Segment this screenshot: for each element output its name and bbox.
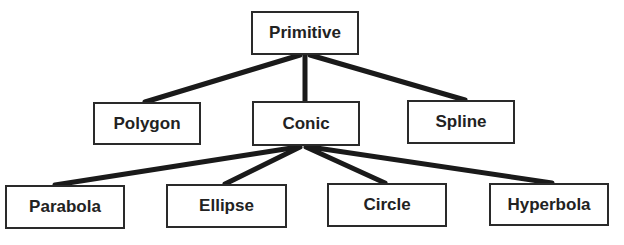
node-polygon: Polygon (93, 102, 201, 145)
node-parabola: Parabola (5, 185, 125, 229)
node-label: Spline (435, 112, 486, 132)
node-circle: Circle (327, 183, 447, 227)
node-conic: Conic (252, 101, 360, 146)
edge-primitive-spline (310, 55, 465, 100)
node-label: Conic (282, 114, 329, 134)
node-spline: Spline (407, 100, 515, 144)
node-label: Polygon (113, 114, 180, 134)
node-label: Parabola (29, 197, 101, 217)
node-label: Hyperbola (507, 195, 590, 215)
node-ellipse: Ellipse (166, 184, 287, 228)
edge-primitive-polygon (145, 55, 300, 102)
node-primitive: Primitive (251, 11, 359, 55)
node-label: Circle (363, 195, 410, 215)
node-label: Primitive (269, 23, 341, 43)
node-hyperbola: Hyperbola (489, 183, 609, 226)
node-label: Ellipse (199, 196, 254, 216)
